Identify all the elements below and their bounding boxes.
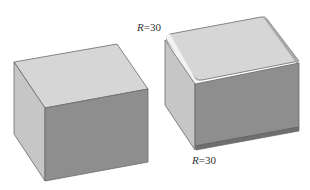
figure: R=30 R=30 (0, 0, 310, 190)
bottom-fillet-label: R=30 (191, 154, 216, 166)
right-box (165, 17, 299, 150)
left-box (14, 44, 148, 181)
top-fillet-label: R=30 (136, 21, 161, 33)
